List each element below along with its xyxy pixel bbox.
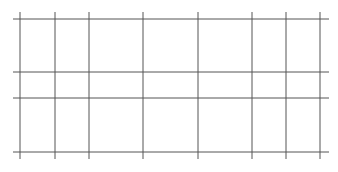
grid-diagram <box>0 0 338 172</box>
